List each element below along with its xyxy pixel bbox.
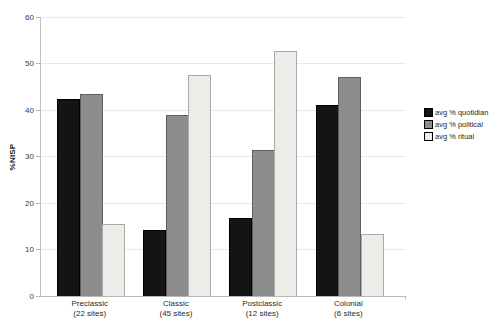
y-tick-label-40: 40 bbox=[6, 106, 34, 115]
bar-classic-avg-ritual bbox=[188, 75, 211, 296]
bar-postclassic-avg-political bbox=[252, 150, 275, 296]
gridline-50 bbox=[41, 63, 406, 64]
bar-colonial-avg-political bbox=[338, 77, 361, 296]
bar-classic-avg-political bbox=[166, 115, 189, 296]
y-tick-mark-20 bbox=[36, 203, 40, 204]
y-tick-label-10: 10 bbox=[6, 245, 34, 254]
gridline-60 bbox=[41, 17, 406, 18]
y-tick-label-60: 60 bbox=[6, 13, 34, 22]
bar-classic-avg-quotidian bbox=[143, 230, 166, 296]
y-tick-label-30: 30 bbox=[6, 152, 34, 161]
x-category-label-colonial: Colonial(6 sites) bbox=[288, 299, 408, 318]
y-tick-mark-40 bbox=[36, 110, 40, 111]
y-tick-mark-10 bbox=[36, 249, 40, 250]
plot-area bbox=[40, 17, 406, 297]
legend-swatch-icon bbox=[424, 120, 433, 129]
legend-swatch-icon bbox=[424, 132, 433, 141]
y-tick-mark-30 bbox=[36, 156, 40, 157]
bar-postclassic-avg-quotidian bbox=[229, 218, 252, 296]
legend-label: avg % political bbox=[435, 120, 483, 129]
bar-postclassic-avg-ritual bbox=[274, 51, 297, 296]
legend-swatch-icon bbox=[424, 108, 433, 117]
legend-label: avg % quotidian bbox=[435, 108, 488, 117]
x-category-site-count: (6 sites) bbox=[288, 309, 408, 319]
y-tick-label-50: 50 bbox=[6, 59, 34, 68]
bar-chart-figure: %NISP 0102030405060 Preclassic(22 sites)… bbox=[0, 0, 492, 324]
x-axis-end-tick bbox=[405, 297, 406, 300]
legend: avg % quotidianavg % politicalavg % ritu… bbox=[424, 106, 488, 142]
bar-colonial-avg-quotidian bbox=[316, 105, 339, 296]
bar-preclassic-avg-quotidian bbox=[57, 99, 80, 296]
bar-preclassic-avg-ritual bbox=[102, 224, 125, 296]
y-tick-mark-0 bbox=[36, 296, 40, 297]
legend-label: avg % ritual bbox=[435, 132, 474, 141]
y-tick-mark-50 bbox=[36, 63, 40, 64]
x-category-name: Colonial bbox=[288, 299, 408, 309]
legend-item: avg % ritual bbox=[424, 130, 488, 142]
legend-item: avg % political bbox=[424, 118, 488, 130]
y-tick-mark-60 bbox=[36, 17, 40, 18]
legend-item: avg % quotidian bbox=[424, 106, 488, 118]
bar-colonial-avg-ritual bbox=[361, 234, 384, 296]
y-tick-label-20: 20 bbox=[6, 199, 34, 208]
bar-preclassic-avg-political bbox=[80, 94, 103, 296]
